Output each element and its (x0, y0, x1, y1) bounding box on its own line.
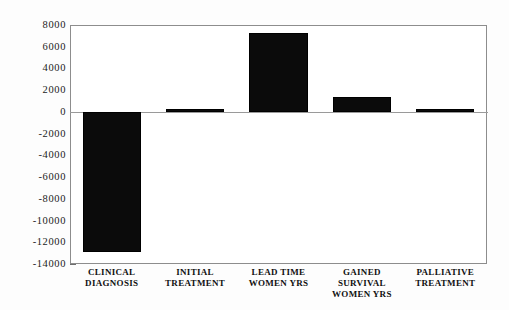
y-tick-label-wrap: -12000 (0, 236, 66, 248)
bar (416, 109, 474, 112)
chart-figure: 80006000400020000-2000-4000-6000-8000-10… (0, 0, 509, 310)
y-tick-label-wrap: 6000 (0, 41, 66, 53)
x-axis-label: CLINICAL DIAGNOSIS (70, 267, 153, 289)
y-tick-label: -10000 (6, 215, 66, 226)
y-tick-label-wrap: -14000 (0, 258, 66, 270)
y-tick-label-wrap: -2000 (0, 128, 66, 140)
bar (166, 109, 224, 112)
y-tick-label: -14000 (6, 258, 66, 269)
y-tick-label: -12000 (6, 236, 66, 247)
bar (333, 97, 391, 112)
y-tick-label-wrap: -4000 (0, 149, 66, 161)
y-tick-label: 0 (6, 106, 66, 117)
y-tick-label-wrap: 0 (0, 106, 66, 118)
y-tick-label: -2000 (6, 128, 66, 139)
y-tick-mark (70, 264, 76, 265)
x-axis-label: LEAD TIME WOMEN YRS (237, 267, 320, 289)
y-tick-label: 2000 (6, 84, 66, 95)
x-axis-label: PALLIATIVE TREATMENT (404, 267, 487, 289)
y-tick-label-wrap: -6000 (0, 171, 66, 183)
y-tick-label: 8000 (6, 19, 66, 30)
y-tick-label: -4000 (6, 149, 66, 160)
y-tick-label: 4000 (6, 62, 66, 73)
bar (83, 112, 141, 252)
bar (249, 33, 307, 112)
y-tick-label-wrap: 4000 (0, 62, 66, 74)
y-tick-label: -8000 (6, 193, 66, 204)
y-tick-label-wrap: 8000 (0, 19, 66, 31)
y-tick-label: -6000 (6, 171, 66, 182)
y-tick-label-wrap: -10000 (0, 215, 66, 227)
y-tick-label-wrap: 2000 (0, 84, 66, 96)
y-tick-label: 6000 (6, 41, 66, 52)
x-axis-label: GAINED SURVIVAL WOMEN YRS (320, 267, 403, 300)
y-tick-label-wrap: -8000 (0, 193, 66, 205)
x-axis-label: INITIAL TREATMENT (153, 267, 236, 289)
